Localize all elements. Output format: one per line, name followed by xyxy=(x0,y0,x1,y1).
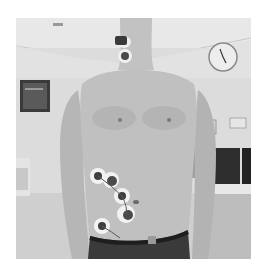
right-nipple xyxy=(167,118,171,122)
photo xyxy=(16,18,251,259)
wall-monitor xyxy=(20,80,50,112)
left-nipple xyxy=(118,118,122,122)
navel xyxy=(133,200,139,204)
wall-clock xyxy=(209,43,237,71)
